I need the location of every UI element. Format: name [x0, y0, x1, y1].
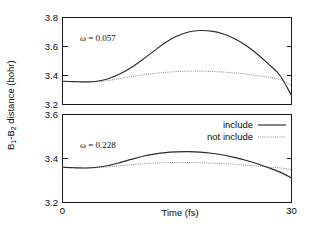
panel-top: 3.8 3.6 3.4 3.2 ω = 0.057 [45, 12, 292, 110]
figure-container: B1-B2 distance (bohr) 3.8 3.6 3.4 3.2 ω … [0, 0, 311, 230]
x-tick-label-30: 30 [286, 205, 297, 216]
panel-bottom-annotation: ω = 0.228 [80, 140, 116, 150]
panel-bottom-ylabel-3.6: 3.6 [45, 109, 58, 120]
svg-text:B1-B2 distance (bohr): B1-B2 distance (bohr) [5, 60, 17, 150]
panel-top-ylabel-3.4: 3.4 [45, 70, 58, 81]
panel-bottom: 3.6 3.4 3.2 ω = 0.228 include not includ… [45, 109, 292, 208]
x-tick-label-0: 0 [60, 205, 65, 216]
panel-top-annotation: ω = 0.057 [80, 33, 116, 43]
y-axis-label: B1-B2 distance (bohr) [5, 60, 17, 150]
legend-label-not-include: not include [207, 131, 253, 142]
x-axis: 0 30 Time (fs) [60, 205, 297, 218]
panel-top-ylabel-3.6: 3.6 [45, 41, 58, 52]
panel-top-ylabel-3.8: 3.8 [45, 12, 58, 23]
panel-top-frame [63, 18, 292, 105]
legend: include not include [207, 119, 286, 142]
legend-label-include: include [223, 119, 253, 130]
panel-bottom-frame [63, 115, 292, 203]
panel-top-curve-not-include [63, 71, 292, 86]
panel-bottom-curve-include [63, 152, 292, 178]
panel-bottom-ylabel-3.2: 3.2 [45, 197, 58, 208]
ylabel-dash: -B [5, 130, 16, 140]
panel-bottom-ylabel-3.4: 3.4 [45, 153, 58, 164]
x-axis-label: Time (fs) [161, 207, 198, 218]
ylabel-rest: distance (bohr) [5, 60, 16, 126]
chart-svg: B1-B2 distance (bohr) 3.8 3.6 3.4 3.2 ω … [0, 0, 311, 230]
